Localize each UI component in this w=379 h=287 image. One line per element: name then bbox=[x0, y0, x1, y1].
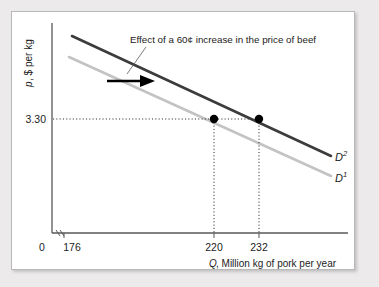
x-tick-label-220: 220 bbox=[205, 241, 223, 253]
y-axis-title-symbol: p bbox=[23, 81, 34, 88]
origin-label: 0 bbox=[39, 241, 45, 253]
y-tick-label-330: 3.30 bbox=[26, 113, 47, 125]
shift-annotation-text: Effect of a 60¢ increase in the price of… bbox=[130, 34, 316, 45]
x-tick-label-232: 232 bbox=[250, 241, 268, 253]
demand-curve-d1 bbox=[69, 57, 331, 176]
curve-label-d1-superscript: 1 bbox=[343, 170, 347, 179]
equilibrium-point-e1 bbox=[210, 115, 218, 123]
y-axis-title-rest: , $ per kg bbox=[23, 39, 34, 81]
demand-curve-chart: Effect of a 60¢ increase in the price of… bbox=[12, 12, 356, 271]
curve-label-d1-letter: D bbox=[335, 172, 343, 184]
curve-label-d1: D 1 bbox=[335, 170, 347, 184]
figure-panel: Effect of a 60¢ increase in the price of… bbox=[11, 11, 355, 270]
x-tick-label-176: 176 bbox=[63, 241, 81, 253]
x-axis-title: Q , Million kg of pork per year bbox=[209, 258, 337, 269]
equilibrium-point-e2 bbox=[255, 115, 263, 123]
curve-label-d2: D 2 bbox=[335, 149, 348, 163]
curve-label-d2-superscript: 2 bbox=[342, 149, 348, 158]
x-axis-title-rest: , Million kg of pork per year bbox=[216, 258, 337, 269]
curve-label-d2-letter: D bbox=[335, 151, 343, 163]
demand-curve-d2 bbox=[72, 36, 331, 156]
y-axis-title: p , $ per kg bbox=[23, 39, 34, 88]
